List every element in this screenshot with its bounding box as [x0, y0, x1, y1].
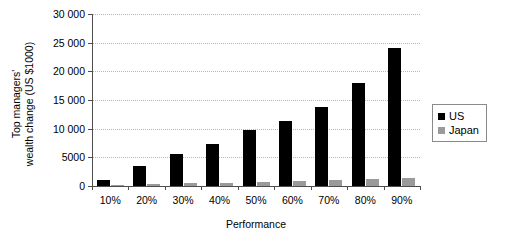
bar-us-50pct: [243, 130, 256, 186]
x-axis-tick: [347, 186, 348, 190]
bar-japan-90pct: [402, 178, 415, 186]
x-axis-label: 30%: [173, 194, 194, 206]
x-axis-tick: [128, 186, 129, 190]
gridline: [93, 43, 420, 44]
bar-japan-20pct: [147, 184, 160, 186]
y-axis-tick: [88, 43, 92, 44]
y-axis-label: 20 000: [53, 65, 85, 77]
bar-us-60pct: [279, 121, 292, 186]
x-axis-title: Performance: [92, 218, 420, 230]
bar-us-30pct: [170, 154, 183, 186]
y-axis-tick: [88, 71, 92, 72]
x-axis-tick: [165, 186, 166, 190]
bar-japan-40pct: [220, 183, 233, 186]
bar-japan-10pct: [111, 185, 124, 186]
bar-japan-70pct: [329, 180, 342, 186]
x-axis-label: 40%: [209, 194, 230, 206]
y-axis-tick: [88, 14, 92, 15]
y-axis-label: 25 000: [53, 37, 85, 49]
bar-us-90pct: [388, 48, 401, 186]
x-axis-tick: [238, 186, 239, 190]
gridline: [93, 100, 420, 101]
bar-us-70pct: [315, 107, 328, 186]
gridline: [93, 14, 420, 15]
y-axis-tick: [88, 100, 92, 101]
x-axis-label: 70%: [318, 194, 339, 206]
x-axis-tick: [274, 186, 275, 190]
y-axis-title: Top managers' wealth change (US $1000): [10, 14, 42, 194]
x-axis-label: 10%: [100, 194, 121, 206]
legend-swatch-us: [438, 113, 445, 120]
y-axis-label: 30 000: [53, 8, 85, 20]
bar-us-20pct: [133, 166, 146, 186]
bar-japan-30pct: [184, 183, 197, 186]
bar-japan-50pct: [257, 182, 270, 186]
legend-swatch-japan: [438, 127, 445, 134]
bar-japan-60pct: [293, 181, 306, 186]
legend-label-japan: Japan: [449, 124, 479, 136]
x-axis-tick: [420, 186, 421, 190]
y-axis-label: 15 000: [53, 94, 85, 106]
x-axis-label: 60%: [282, 194, 303, 206]
gridline: [93, 157, 420, 158]
chart-legend: US Japan: [432, 104, 487, 142]
bar-us-40pct: [206, 144, 219, 186]
x-axis-line: [92, 186, 420, 187]
y-axis-label: 0: [79, 180, 85, 192]
plot-area: 0500010 00015 00020 00025 00030 000 10%2…: [92, 14, 420, 186]
bar-us-80pct: [352, 83, 365, 186]
gridline: [93, 129, 420, 130]
legend-item-japan: Japan: [438, 123, 479, 137]
bar-japan-80pct: [366, 179, 379, 186]
bar-chart-figure: Top managers' wealth change (US $1000) 0…: [0, 0, 510, 244]
x-axis-tick: [92, 186, 93, 190]
legend-item-us: US: [438, 109, 479, 123]
gridline: [93, 71, 420, 72]
y-axis-label: 10 000: [53, 123, 85, 135]
y-axis-tick: [88, 157, 92, 158]
x-axis-label: 90%: [391, 194, 412, 206]
y-axis-label: 5000: [62, 151, 85, 163]
legend-label-us: US: [449, 110, 464, 122]
y-axis-tick: [88, 129, 92, 130]
x-axis-tick: [384, 186, 385, 190]
x-axis-tick: [201, 186, 202, 190]
x-axis-label: 80%: [355, 194, 376, 206]
x-axis-tick: [311, 186, 312, 190]
bar-us-10pct: [97, 180, 110, 186]
x-axis-label: 50%: [245, 194, 266, 206]
x-axis-label: 20%: [136, 194, 157, 206]
